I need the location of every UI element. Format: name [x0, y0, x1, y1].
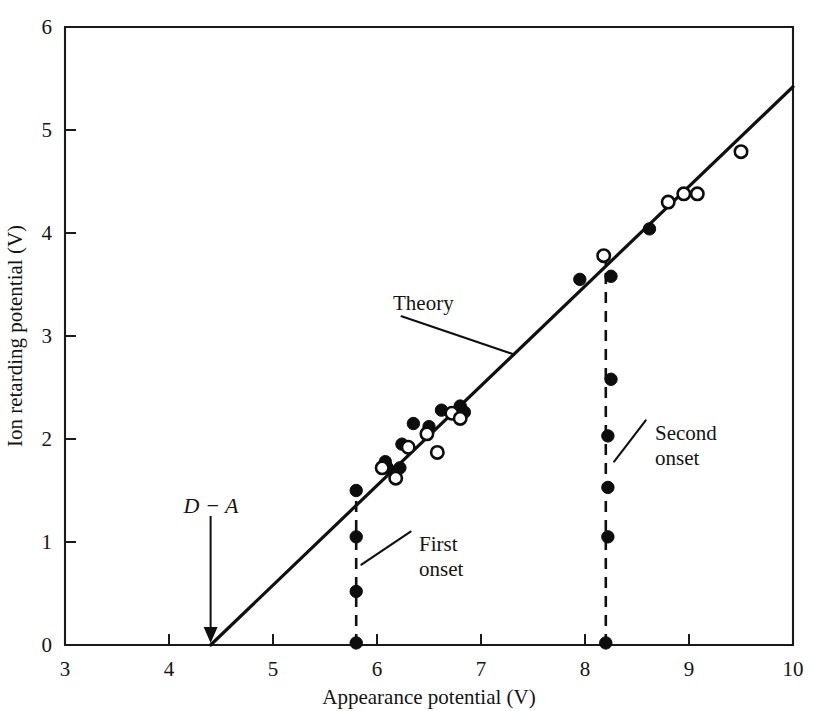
x-axis-title: Appearance potential (V)	[322, 685, 535, 709]
scatter-plot: 3 4 5 6 7 8 9 10 0 1 2 3 4 5 6 Appearanc…	[0, 0, 813, 711]
data-point-filled-15	[602, 430, 614, 442]
y-tick-label-0: 0	[42, 633, 53, 657]
data-point-open-6	[454, 412, 466, 424]
data-point-filled-17	[602, 531, 614, 543]
data-point-filled-14	[605, 373, 617, 385]
x-tick-label-9: 9	[684, 657, 695, 681]
first-onset-label-line2: onset	[419, 557, 463, 581]
figure-root: 3 4 5 6 7 8 9 10 0 1 2 3 4 5 6 Appearanc…	[0, 0, 813, 711]
data-point-open-8	[662, 196, 674, 208]
x-tick-label-3: 3	[60, 657, 71, 681]
data-point-open-11	[735, 145, 747, 157]
data-point-filled-20	[574, 273, 586, 285]
data-point-open-2	[402, 441, 414, 453]
first-onset-label-line1: First	[419, 532, 458, 556]
y-tick-label-1: 1	[42, 530, 53, 554]
y-axis-title: Ion retarding potential (V)	[3, 225, 27, 447]
second-onset-label-line2: onset	[655, 446, 699, 470]
x-tick-label-7: 7	[476, 657, 487, 681]
y-tick-label-6: 6	[42, 15, 53, 39]
d-minus-a-annotation-label: D − A	[183, 493, 239, 518]
x-tick-label-10: 10	[783, 657, 804, 681]
x-tick-label-8: 8	[580, 657, 591, 681]
figure-background	[0, 0, 813, 711]
data-point-filled-16	[602, 481, 614, 493]
data-point-filled-0	[350, 484, 362, 496]
data-point-filled-19	[643, 223, 655, 235]
x-tick-label-6: 6	[372, 657, 383, 681]
y-tick-label-3: 3	[42, 324, 53, 348]
data-point-open-10	[691, 188, 703, 200]
data-point-filled-2	[350, 585, 362, 597]
y-tick-label-4: 4	[42, 221, 53, 245]
data-point-open-1	[390, 472, 402, 484]
y-tick-label-2: 2	[42, 427, 53, 451]
data-point-filled-1	[350, 531, 362, 543]
x-tick-label-4: 4	[164, 657, 175, 681]
data-point-filled-3	[350, 637, 362, 649]
theory-annotation-label: Theory	[393, 291, 454, 315]
data-point-filled-8	[407, 417, 419, 429]
second-onset-label-line1: Second	[655, 421, 717, 445]
data-point-filled-13	[605, 270, 617, 282]
y-tick-label-5: 5	[42, 118, 53, 142]
data-point-open-4	[431, 446, 443, 458]
x-tick-label-5: 5	[268, 657, 279, 681]
data-point-open-3	[421, 428, 433, 440]
data-point-open-7	[598, 249, 610, 261]
data-point-open-0	[376, 462, 388, 474]
data-point-open-9	[678, 188, 690, 200]
data-point-filled-18	[600, 637, 612, 649]
